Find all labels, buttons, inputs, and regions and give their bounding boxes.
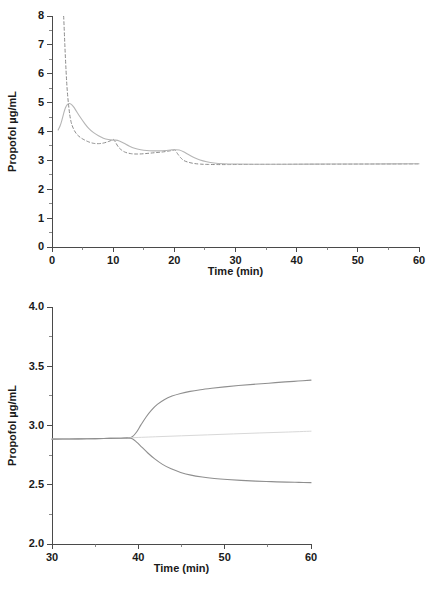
x-axis-ticks: 0102030405060 xyxy=(49,247,425,266)
x-axis-ticks: 30405060 xyxy=(46,544,317,563)
chart-panel-top: 0123456780102030405060Time (min)Propofol… xyxy=(0,0,427,295)
series-upper-bound-concentration xyxy=(52,380,311,439)
y-tick-label: 4 xyxy=(38,125,45,137)
y-tick-label: 2 xyxy=(38,183,44,195)
chart-panel-bottom: 2.02.53.03.54.030405060Time (min)Propofo… xyxy=(0,295,427,590)
chart-svg-top: 0123456780102030405060Time (min)Propofol… xyxy=(0,0,427,295)
x-tick-label: 50 xyxy=(219,551,231,563)
y-tick-label: 3 xyxy=(38,154,44,166)
y-axis-ticks: 2.02.53.03.54.0 xyxy=(29,300,52,549)
x-tick-label: 10 xyxy=(107,254,119,266)
y-tick-label: 3.5 xyxy=(29,360,44,372)
series-group xyxy=(52,380,311,483)
x-tick-label: 20 xyxy=(168,254,180,266)
y-tick-label: 0 xyxy=(38,240,44,252)
y-axis-title: Propofol µg/mL xyxy=(6,91,18,172)
y-tick-label: 8 xyxy=(38,9,44,21)
y-tick-label: 6 xyxy=(38,67,44,79)
y-tick-label: 2.5 xyxy=(29,478,44,490)
x-tick-label: 40 xyxy=(132,551,144,563)
figure-container: 0123456780102030405060Time (min)Propofol… xyxy=(0,0,427,590)
x-tick-label: 60 xyxy=(413,254,425,266)
x-axis-title: Time (min) xyxy=(208,265,264,277)
series-lower-bound-concentration xyxy=(52,438,311,483)
y-tick-label: 4.0 xyxy=(29,300,44,312)
y-axis-title: Propofol µg/mL xyxy=(6,385,18,466)
y-tick-label: 2.0 xyxy=(29,537,44,549)
series-group xyxy=(56,0,419,165)
series-baseline-concentration xyxy=(52,431,311,439)
x-tick-label: 60 xyxy=(305,551,317,563)
chart-svg-bottom: 2.02.53.03.54.030405060Time (min)Propofo… xyxy=(0,295,427,590)
x-axis-title: Time (min) xyxy=(154,562,210,574)
x-tick-label: 30 xyxy=(46,551,58,563)
y-axis-ticks: 012345678 xyxy=(38,9,52,252)
y-tick-label: 5 xyxy=(38,96,44,108)
y-tick-label: 7 xyxy=(38,38,44,50)
x-tick-label: 40 xyxy=(291,254,303,266)
y-tick-label: 1 xyxy=(38,212,44,224)
axes xyxy=(52,16,419,247)
y-tick-label: 3.0 xyxy=(29,419,44,431)
x-tick-label: 50 xyxy=(352,254,364,266)
axes xyxy=(52,307,311,544)
series-effect-site-concentration xyxy=(58,103,419,164)
x-tick-label: 0 xyxy=(49,254,55,266)
